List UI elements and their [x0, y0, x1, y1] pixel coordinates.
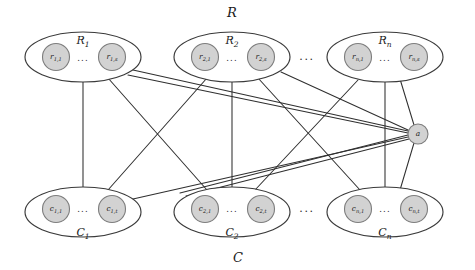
inner-ellipsis-row-2: ...: [226, 53, 237, 63]
inner-ellipsis-row-1: ...: [77, 53, 88, 63]
edges-layer: [83, 70, 414, 199]
node-label-apex-a: a: [416, 129, 420, 138]
inner-ellipsis-col-1: ...: [77, 204, 88, 214]
inner-ellipsis-col-3: ...: [379, 204, 390, 214]
edge-Rn-a: [400, 79, 414, 125]
edge-R1b-a: [128, 75, 408, 133]
edge-Rn-C2: [255, 80, 358, 190]
inner-ellipsis-row-3: ...: [379, 53, 390, 63]
graph-diagram: r1,1r1,s...r2,1r2,s...rn,1rn,s...c1,1c1,…: [0, 0, 475, 270]
inner-ellipsis-col-2: ...: [226, 204, 237, 214]
diagram-canvas: r1,1r1,s...r2,1r2,s...rn,1rn,s...c1,1c1,…: [0, 0, 475, 270]
edge-a-C2b: [180, 135, 408, 193]
row-ellipsis: ...: [299, 50, 314, 63]
col-ellipsis: ...: [299, 202, 314, 215]
edge-a-Cn: [400, 143, 414, 190]
set-label-C: C: [233, 250, 243, 265]
set-label-R: R: [226, 5, 237, 20]
